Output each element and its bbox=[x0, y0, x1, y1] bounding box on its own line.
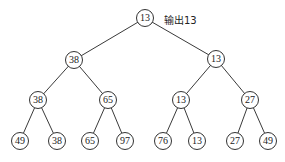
tree-node: 49 bbox=[11, 132, 29, 150]
tree-node: 97 bbox=[116, 132, 134, 150]
tree-node: 49 bbox=[259, 132, 277, 150]
tree-node: 13 bbox=[188, 132, 206, 150]
tree-node: 38 bbox=[29, 91, 47, 109]
tree-node: 27 bbox=[226, 132, 244, 150]
tree-edge bbox=[74, 18, 145, 60]
tree-node: 65 bbox=[99, 91, 117, 109]
tournament-tree-diagram: 133813386513274938659776132749 输出13 bbox=[0, 0, 285, 162]
tree-node: 27 bbox=[241, 91, 259, 109]
tree-node: 38 bbox=[65, 51, 83, 69]
tree-node: 76 bbox=[154, 132, 172, 150]
output-annotation: 输出13 bbox=[164, 12, 197, 27]
tree-node: 13 bbox=[207, 50, 225, 68]
tree-node: 65 bbox=[81, 132, 99, 150]
tree-node: 13 bbox=[172, 91, 190, 109]
tree-node: 13 bbox=[136, 9, 154, 27]
tree-node: 38 bbox=[48, 132, 66, 150]
